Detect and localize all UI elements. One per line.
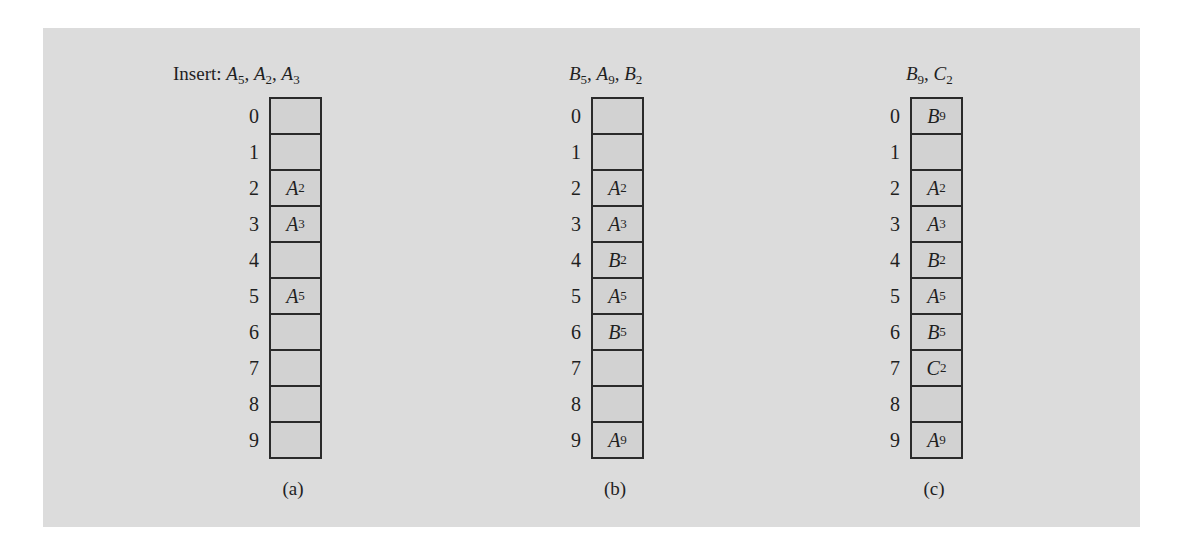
slot-key-letter: A [608,213,620,236]
hash-slot [593,387,642,423]
subfigure-caption: (a) [263,478,323,500]
slot-index-label: 4 [239,242,259,278]
hash-slot: A3 [593,207,642,243]
slot-key-letter: A [608,429,620,452]
slot-index-label: 7 [880,350,900,386]
hash-slot: A2 [912,171,961,207]
subfigure-caption: (b) [585,478,645,500]
slot-index-label: 7 [561,350,581,386]
inserted-key: C2 [934,63,953,84]
slot-index-label: 2 [239,170,259,206]
slot-index-label: 5 [561,278,581,314]
slot-key-letter: A [927,213,939,236]
hash-slot: A2 [271,171,320,207]
slot-index-label: 6 [561,314,581,350]
slot-index-label: 6 [239,314,259,350]
slot-key-letter: B [927,105,939,128]
inserted-key: A2 [254,63,272,84]
insert-prefix: Insert: [173,63,226,84]
inserted-key: A9 [597,63,615,84]
slot-index-label: 3 [561,206,581,242]
hash-table-slots: A2A3B2A5B5A9 [591,97,644,459]
inserted-key: B9 [906,63,924,84]
hash-slot: B5 [593,315,642,351]
slot-index-label: 9 [239,422,259,458]
inserted-key: A3 [282,63,300,84]
slot-index-label: 3 [239,206,259,242]
slot-index-label: 3 [880,206,900,242]
hash-slot: A3 [271,207,320,243]
hash-slot: A5 [271,279,320,315]
hash-slot [271,135,320,171]
slot-key-letter: A [927,429,939,452]
slot-index-label: 2 [561,170,581,206]
slot-key-letter: A [927,177,939,200]
slot-index-label: 5 [880,278,900,314]
hash-slot: B2 [912,243,961,279]
hash-slot [912,135,961,171]
hash-slot [912,387,961,423]
slot-index-label: 4 [561,242,581,278]
hash-slot [271,423,320,457]
slot-index-label: 0 [880,98,900,134]
hash-slot: A3 [912,207,961,243]
slot-index-label: 0 [561,98,581,134]
hash-slot: C2 [912,351,961,387]
slot-key-letter: B [608,321,620,344]
hash-slot: A2 [593,171,642,207]
slot-key-letter: A [286,177,298,200]
hash-table-slots: A2A3A5 [269,97,322,459]
slot-index-label: 5 [239,278,259,314]
hash-slot: B9 [912,99,961,135]
hash-slot [271,99,320,135]
slot-index-label: 2 [880,170,900,206]
slot-key-letter: C [927,357,940,380]
hash-slot [271,387,320,423]
hash-slot [271,315,320,351]
slot-index-label: 8 [239,386,259,422]
slot-index-label: 8 [561,386,581,422]
inserted-key: B5 [569,63,587,84]
inserted-key: B2 [624,63,642,84]
slot-index-label: 1 [239,134,259,170]
slot-index-label: 8 [880,386,900,422]
slot-key-letter: A [286,285,298,308]
hash-slot: A9 [912,423,961,457]
hash-slot: B2 [593,243,642,279]
hash-slot: A9 [593,423,642,457]
slot-key-letter: A [608,285,620,308]
slot-key-letter: B [927,321,939,344]
slot-index-label: 7 [239,350,259,386]
hash-slot: A5 [593,279,642,315]
inserted-key: A5 [226,63,244,84]
hash-slot [593,135,642,171]
slot-index-label: 1 [880,134,900,170]
hash-slot [271,243,320,279]
slot-key-letter: A [927,285,939,308]
slot-index-label: 0 [239,98,259,134]
insert-sequence-label: Insert: A5, A2, A3 [173,64,300,83]
slot-key-letter: A [608,177,620,200]
slot-index-label: 1 [561,134,581,170]
slot-index-label: 9 [561,422,581,458]
hash-slot [271,351,320,387]
subfigure-caption: (c) [904,478,964,500]
hash-slot: B5 [912,315,961,351]
slot-key-letter: B [927,249,939,272]
slot-index-label: 4 [880,242,900,278]
hash-slot [593,351,642,387]
slot-key-letter: B [608,249,620,272]
insert-sequence-label: B5, A9, B2 [569,64,642,83]
slot-index-label: 6 [880,314,900,350]
slot-index-label: 9 [880,422,900,458]
hash-slot: A5 [912,279,961,315]
hash-slot [593,99,642,135]
insert-sequence-label: B9, C2 [906,64,953,83]
slot-key-letter: A [286,213,298,236]
hash-table-slots: B9A2A3B2A5B5C2A9 [910,97,963,459]
